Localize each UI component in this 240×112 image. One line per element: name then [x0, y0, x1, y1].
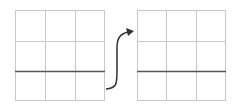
diagram-canvas	[0, 0, 240, 112]
curved-arrow-icon	[106, 28, 134, 89]
left-grid	[16, 11, 105, 101]
right-grid	[138, 11, 226, 101]
